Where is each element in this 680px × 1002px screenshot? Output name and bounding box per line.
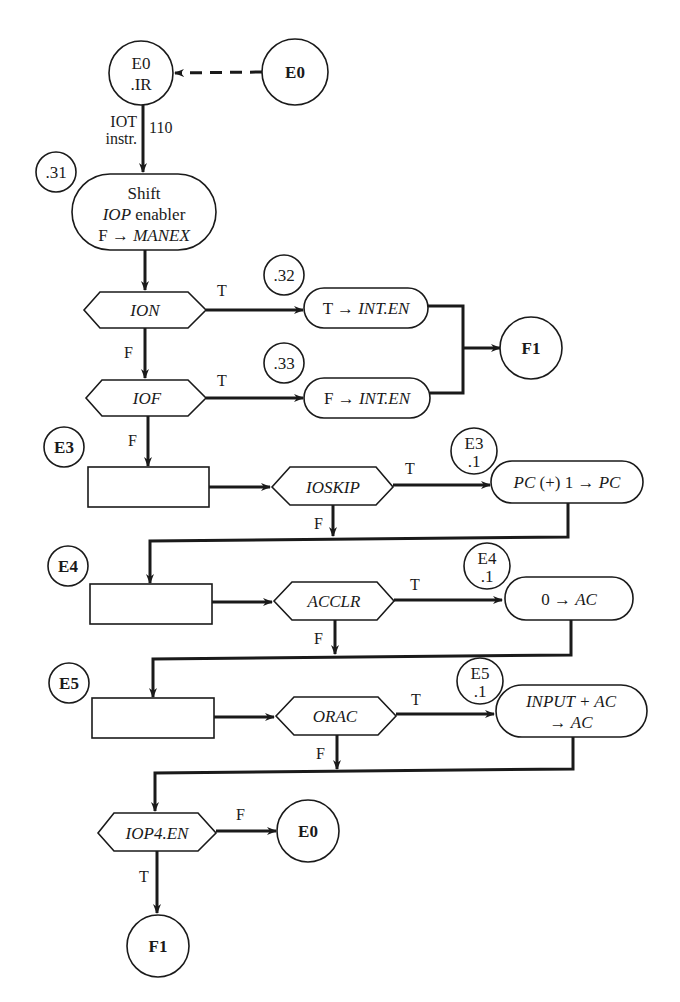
ref-circle-e3-1: E3 .1 — [451, 428, 497, 474]
node-e0-top: E0 — [262, 39, 328, 105]
state-e5: E5 — [49, 663, 89, 703]
node-f1-mid: F1 — [500, 317, 562, 379]
label-acclr-false: F — [314, 630, 323, 647]
f1-mid-label: F1 — [522, 339, 541, 358]
flowchart-canvas: E0 .IR E0 IOT instr. 110 .31 Shift IOP e… — [0, 0, 680, 1002]
state-e3: E3 — [44, 427, 84, 467]
decision-ion: ION — [84, 292, 206, 328]
decision-acclr: ACCLR — [274, 582, 394, 620]
iop4-en-label: IOP4.EN — [125, 824, 190, 843]
label-acclr-true: T — [410, 576, 420, 593]
acclr-label: ACCLR — [307, 592, 362, 611]
state-e4: E4 — [48, 546, 88, 586]
label-ion-true: T — [217, 282, 227, 299]
ion-label: ION — [129, 301, 161, 320]
label-instr: instr. — [105, 130, 137, 147]
shift-line2: IOP enabler — [102, 205, 186, 224]
label-iof-false: F — [128, 432, 137, 449]
e5-1-line1: E5 — [471, 664, 490, 683]
e5-action-box — [92, 698, 214, 738]
node-f-int-en: F → INT.EN — [304, 378, 430, 418]
e0-top-label: E0 — [285, 63, 305, 82]
e4-1-line2: .1 — [481, 567, 494, 586]
ref-circle-e4-1: E4 .1 — [464, 543, 510, 589]
merge-line-int-en — [428, 306, 463, 393]
label-orac-true: T — [411, 691, 421, 708]
orac-label: ORAC — [313, 707, 358, 726]
ref-circle-32: .32 — [264, 255, 304, 295]
label-orac-false: F — [316, 745, 325, 762]
decision-ioskip: IOSKIP — [272, 467, 393, 505]
e5-1-line2: .1 — [474, 682, 487, 701]
shift-line1: Shift — [127, 184, 160, 203]
shift-line3: F → MANEX — [98, 226, 190, 245]
dashed-arrow-e0-to-e0ir — [175, 72, 262, 73]
e4-label: E4 — [58, 557, 78, 576]
ioskip-label: IOSKIP — [305, 478, 360, 497]
label-iof-true: T — [217, 372, 227, 389]
e3-label: E3 — [54, 438, 74, 457]
e3-action-box — [88, 467, 209, 507]
t-int-en-text: T → INT.EN — [323, 299, 411, 318]
node-input-ac: INPUT + AC → AC — [496, 685, 647, 737]
e4-action-box — [90, 584, 212, 624]
label-iop4-false: F — [236, 806, 245, 823]
ref-31-label: .31 — [45, 163, 66, 182]
input-ac-line2: → AC — [550, 713, 594, 732]
decision-iof: IOF — [86, 380, 206, 416]
e0-ir-line1: E0 — [132, 54, 151, 73]
merge-line-to-iop4 — [155, 737, 573, 811]
zero-ac-text: 0 → AC — [541, 590, 597, 609]
f1-bottom-label: F1 — [149, 937, 168, 956]
node-f1-bottom: F1 — [127, 915, 189, 977]
e4-1-line1: E4 — [478, 549, 497, 568]
label-ion-false: F — [124, 344, 133, 361]
input-ac-line1: INPUT + AC — [525, 692, 617, 711]
node-shift-box: Shift IOP enabler F → MANEX — [72, 174, 216, 250]
decision-orac: ORAC — [276, 697, 396, 735]
merge-line-to-e5 — [153, 620, 571, 697]
ref-circle-e5-1: E5 .1 — [457, 658, 503, 704]
label-ioskip-false: F — [314, 515, 323, 532]
label-iot: IOT — [110, 113, 137, 130]
node-e0-bottom: E0 — [277, 800, 339, 862]
decision-iop4-en: IOP4.EN — [98, 813, 216, 851]
f-int-en-text: F → INT.EN — [324, 389, 412, 408]
ref-circle-31: .31 — [36, 152, 76, 192]
ref-circle-33: .33 — [264, 343, 304, 383]
e5-label: E5 — [59, 674, 79, 693]
ref-32-label: .32 — [273, 266, 294, 285]
node-e0-ir: E0 .IR — [109, 41, 173, 105]
pc-increment-text: PC (+) 1 → PC — [513, 473, 622, 492]
e0-bottom-label: E0 — [298, 822, 318, 841]
label-110: 110 — [149, 119, 172, 136]
e3-1-line1: E3 — [465, 434, 484, 453]
node-t-int-en: T → INT.EN — [304, 288, 428, 328]
node-pc-increment: PC (+) 1 → PC — [491, 461, 643, 503]
ref-33-label: .33 — [273, 354, 294, 373]
node-zero-ac: 0 → AC — [505, 577, 633, 620]
label-ioskip-true: T — [405, 460, 415, 477]
iof-label: IOF — [132, 389, 162, 408]
e3-1-line2: .1 — [468, 452, 481, 471]
label-iop4-true: T — [139, 868, 149, 885]
e0-ir-line2: .IR — [130, 75, 152, 94]
